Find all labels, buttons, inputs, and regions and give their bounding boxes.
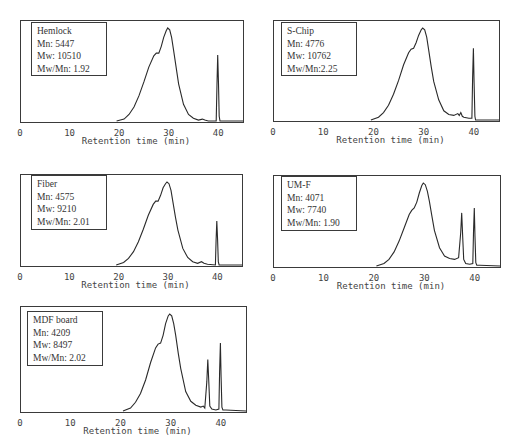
x-tick-label: 40 <box>215 418 226 428</box>
x-tick-label: 10 <box>65 418 76 428</box>
legend-box: MDF boardMn: 4209Mw: 8497Mw/Mn: 2.02 <box>27 311 103 366</box>
chromatogram-trace <box>0 0 515 446</box>
trace-line <box>123 314 246 411</box>
stat-line: Mn: 4209 <box>33 327 102 340</box>
x-tick-label: 0 <box>17 418 22 428</box>
stat-line: Mw: 8497 <box>33 339 102 352</box>
stat-line: Mw/Mn: 2.02 <box>33 352 102 365</box>
x-axis-title: Retention time (min) <box>83 426 191 436</box>
sample-name: MDF board <box>33 314 102 327</box>
